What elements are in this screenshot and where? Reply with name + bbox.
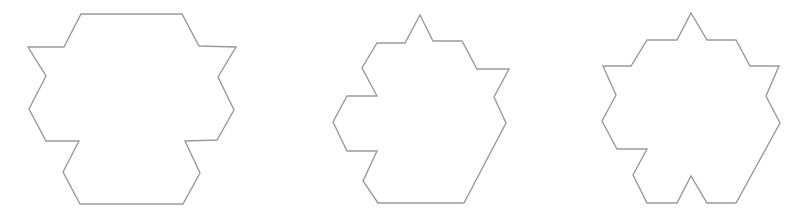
figure-canvas xyxy=(0,0,798,223)
shapes-figure xyxy=(0,0,798,223)
shape-2 xyxy=(333,15,509,203)
shape-3 xyxy=(602,13,780,203)
shape-1 xyxy=(28,14,236,204)
